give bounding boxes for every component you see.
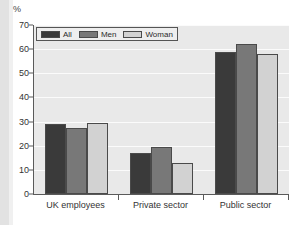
x-axis-tick-mark (288, 195, 289, 200)
x-axis-tick-mark (203, 195, 204, 200)
plot-area (33, 25, 289, 195)
bar (215, 52, 236, 194)
y-axis-tick-label: 60 (5, 44, 29, 54)
y-axis-tick-label: 0 (5, 189, 29, 199)
bar (130, 153, 151, 194)
legend-swatch (79, 31, 98, 38)
x-axis-tick-mark (118, 195, 119, 200)
x-axis-category-label: Public sector (220, 200, 272, 210)
legend-swatch (41, 31, 60, 38)
y-axis-tick-label: 40 (5, 92, 29, 102)
bar (66, 128, 87, 194)
y-axis-unit-label: % (13, 4, 21, 14)
gridline (34, 25, 289, 26)
legend-label: All (63, 30, 72, 39)
legend-entry: All (41, 30, 72, 39)
bar (45, 124, 66, 194)
legend-entry: Men (79, 30, 117, 39)
legend-entry: Woman (123, 30, 172, 39)
y-axis-tick-label: 10 (5, 165, 29, 175)
y-axis-tick-label: 70 (5, 20, 29, 30)
y-axis-tick-label: 20 (5, 141, 29, 151)
x-axis-category-label: Private sector (133, 200, 188, 210)
bar (236, 44, 257, 194)
y-axis-tick-label: 50 (5, 68, 29, 78)
bar (172, 163, 193, 194)
bar (87, 123, 108, 194)
x-axis-category-label: UK employees (46, 200, 105, 210)
bar (257, 54, 278, 194)
bar (151, 147, 172, 194)
chart-legend: AllMenWoman (36, 27, 178, 41)
legend-swatch (123, 31, 142, 38)
y-axis-tick-label: 30 (5, 117, 29, 127)
chart-figure: % 010203040506070 UK employeesPrivate se… (0, 0, 304, 225)
legend-label: Woman (145, 30, 172, 39)
legend-label: Men (101, 30, 117, 39)
